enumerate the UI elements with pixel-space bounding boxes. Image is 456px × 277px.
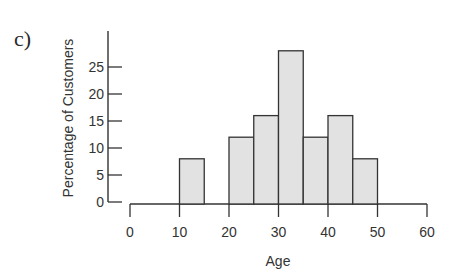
y-tick-label: 5	[96, 167, 104, 183]
histogram-bar	[254, 116, 279, 204]
y-tick-label: 10	[88, 140, 104, 156]
y-axis: 0510152025	[88, 31, 122, 210]
y-tick-label: 25	[88, 59, 104, 75]
x-axis: 0102030405060	[126, 204, 435, 240]
x-tick-label: 40	[320, 224, 336, 240]
bars	[180, 51, 378, 204]
y-axis-title: Percentage of Customers	[60, 39, 76, 198]
x-tick-label: 20	[221, 224, 237, 240]
histogram-chart: 0510152025 0102030405060 Percentage of C…	[0, 0, 456, 277]
histogram-bar	[229, 137, 254, 204]
x-axis-title: Age	[266, 253, 291, 269]
x-tick-label: 10	[172, 224, 188, 240]
histogram-bar	[328, 116, 353, 204]
y-tick-label: 15	[88, 113, 104, 129]
histogram-bar	[180, 159, 205, 204]
histogram-bar	[303, 137, 328, 204]
x-tick-label: 30	[271, 224, 287, 240]
y-tick-label: 0	[96, 194, 104, 210]
x-tick-label: 60	[419, 224, 435, 240]
x-tick-label: 0	[126, 224, 134, 240]
x-tick-label: 50	[370, 224, 386, 240]
histogram-bar	[353, 159, 378, 204]
histogram-bar	[279, 51, 304, 204]
y-tick-label: 20	[88, 86, 104, 102]
